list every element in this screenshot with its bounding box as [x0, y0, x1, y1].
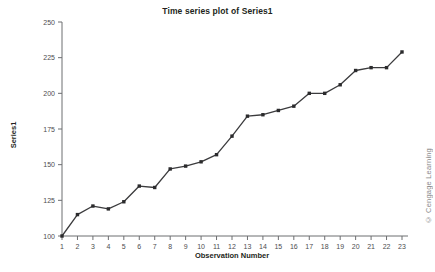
data-point-marker — [60, 234, 63, 237]
data-point-marker — [400, 50, 403, 53]
x-tick-label: 19 — [336, 243, 344, 250]
y-tick-label: 125 — [43, 197, 55, 204]
x-tick-label: 5 — [122, 243, 126, 250]
x-tick-label: 17 — [305, 243, 313, 250]
y-tick-label: 250 — [43, 19, 55, 26]
x-tick-label: 21 — [367, 243, 375, 250]
data-point-marker — [277, 109, 280, 112]
x-tick-label: 7 — [153, 243, 157, 250]
x-tick-label: 16 — [290, 243, 298, 250]
data-point-marker — [122, 200, 125, 203]
y-tick-label: 175 — [43, 126, 55, 133]
x-tick-label: 8 — [168, 243, 172, 250]
x-tick-label: 3 — [91, 243, 95, 250]
data-point-marker — [338, 83, 341, 86]
y-tick-label: 225 — [43, 54, 55, 61]
data-point-marker — [91, 204, 94, 207]
data-point-marker — [184, 164, 187, 167]
y-tick-label: 100 — [43, 233, 55, 240]
series-line-group — [60, 50, 403, 237]
x-tick-label: 1 — [60, 243, 64, 250]
x-axis: 1234567891011121314151617181920212223 — [60, 236, 408, 250]
y-tick-label: 150 — [43, 161, 55, 168]
x-tick-label: 6 — [137, 243, 141, 250]
x-tick-label: 11 — [213, 243, 220, 250]
chart-figure: Time series plot of Series1 100125150175… — [0, 0, 435, 272]
x-tick-label: 22 — [383, 243, 391, 250]
x-tick-label: 10 — [197, 243, 205, 250]
x-tick-label: 14 — [259, 243, 267, 250]
data-point-marker — [354, 69, 357, 72]
copyright-notice: © Cengage Learning — [424, 148, 433, 224]
x-tick-label: 4 — [106, 243, 110, 250]
data-point-marker — [385, 66, 388, 69]
data-point-marker — [292, 104, 295, 107]
x-tick-label: 12 — [228, 243, 236, 250]
x-tick-label: 20 — [352, 243, 360, 250]
y-axis: 100125150175200225250 — [43, 19, 62, 240]
x-axis-title: Observation Number — [195, 251, 269, 260]
data-point-marker — [369, 66, 372, 69]
data-point-marker — [261, 113, 264, 116]
data-point-marker — [199, 160, 202, 163]
data-point-marker — [215, 153, 218, 156]
x-tick-label: 23 — [398, 243, 406, 250]
data-point-marker — [138, 184, 141, 187]
x-tick-label: 2 — [76, 243, 80, 250]
y-tick-label: 200 — [43, 90, 55, 97]
data-point-marker — [107, 207, 110, 210]
data-point-marker — [230, 134, 233, 137]
data-point-marker — [308, 92, 311, 95]
x-tick-label: 13 — [244, 243, 252, 250]
data-point-marker — [323, 92, 326, 95]
data-point-marker — [76, 213, 79, 216]
series-line — [62, 52, 402, 236]
x-tick-label: 9 — [184, 243, 188, 250]
data-point-marker — [246, 114, 249, 117]
data-point-marker — [168, 167, 171, 170]
x-tick-label: 18 — [321, 243, 329, 250]
data-point-marker — [153, 186, 156, 189]
time-series-plot: 100125150175200225250 123456789101112131… — [0, 0, 435, 272]
y-axis-title: Series1 — [9, 122, 18, 149]
x-tick-label: 15 — [274, 243, 282, 250]
